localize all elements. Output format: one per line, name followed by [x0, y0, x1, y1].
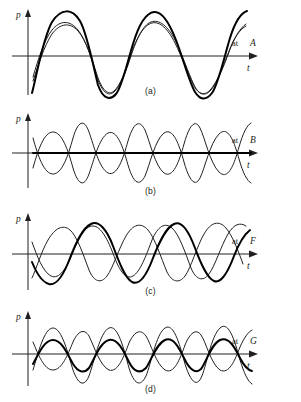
location-prefix-d: at — [232, 336, 239, 346]
x-axis-arrow-c — [249, 251, 258, 258]
location-letter-d: G — [250, 336, 257, 346]
wave-component-1-a — [33, 21, 246, 94]
location-prefix-c: at — [232, 236, 239, 246]
location-letter-c: F — [249, 236, 256, 246]
wave-superposition-figure: p t at A (a) p t at B (b) — [0, 0, 301, 402]
y-axis-arrow-b — [25, 113, 31, 121]
location-letter-a: A — [249, 38, 256, 48]
wave-component-2-b — [33, 123, 251, 175]
panel-d: p t at G — [0, 298, 301, 398]
x-axis-label-c: t — [247, 261, 250, 271]
location-prefix-b: at — [232, 135, 239, 145]
x-axis-label-d: t — [247, 361, 250, 371]
axes-d — [12, 311, 258, 386]
location-prefix-a: at — [232, 38, 239, 48]
panel-b: p t at B — [0, 100, 301, 200]
caption-a: (a) — [0, 86, 301, 96]
x-axis-arrow-d — [249, 351, 258, 358]
panel-a: p t at A — [0, 0, 301, 100]
axes-b — [12, 113, 258, 188]
x-axis-arrow-a — [249, 53, 258, 60]
y-axis-arrow-d — [25, 311, 31, 319]
y-axis-arrow-a — [25, 9, 31, 17]
panel-c: p t at F — [0, 200, 301, 300]
y-axis-label-c: p — [15, 214, 21, 224]
y-axis-label-d: p — [15, 312, 21, 322]
wave-resultant-d — [33, 339, 252, 371]
x-axis-label-b: t — [247, 160, 250, 170]
y-axis-label-a: p — [15, 10, 21, 20]
caption-b: (b) — [0, 186, 301, 196]
y-axis-label-b: p — [15, 114, 21, 124]
axes-a — [12, 9, 258, 95]
y-axis-arrow-c — [25, 213, 31, 221]
x-axis-label-a: t — [247, 63, 250, 73]
location-letter-b: B — [250, 135, 256, 145]
wave-component-2-a — [33, 23, 246, 94]
wave-component-large-d — [33, 326, 252, 384]
caption-c: (c) — [0, 286, 301, 296]
wave-component-1-b — [33, 131, 251, 183]
caption-d: (d) — [0, 384, 301, 394]
